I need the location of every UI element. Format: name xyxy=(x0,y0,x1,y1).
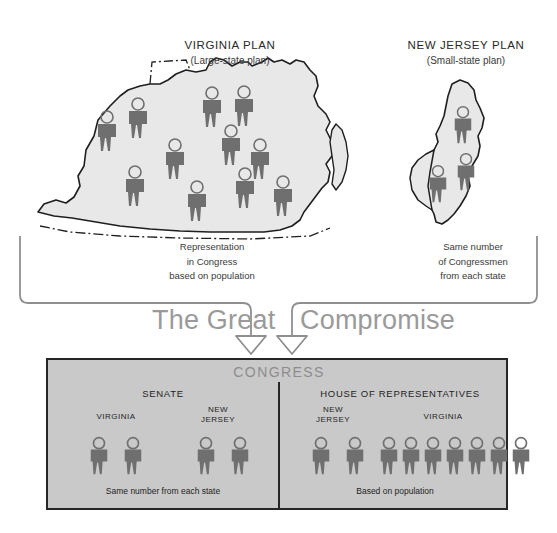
house-new-jersey-label: NEW JERSEY xyxy=(298,405,368,425)
senate-new-jersey-figures xyxy=(195,436,251,476)
person-icon xyxy=(195,436,217,476)
person-icon xyxy=(400,436,422,476)
congress-title: CONGRESS xyxy=(48,364,510,380)
person-icon xyxy=(422,436,444,476)
senate-caption: Same number from each state xyxy=(48,486,278,496)
person-icon xyxy=(88,436,110,476)
senate-new-jersey-label: NEW JERSEY xyxy=(183,405,253,425)
diagram-canvas: VIRGINIA PLAN (Large-state plan) NEW JER… xyxy=(0,0,557,533)
person-icon xyxy=(310,436,332,476)
person-icon xyxy=(122,436,144,476)
house-virginia-label: VIRGINIA xyxy=(398,412,488,422)
person-icon xyxy=(344,436,366,476)
senate-virginia-figures xyxy=(88,436,144,476)
house-caption: Based on population xyxy=(280,486,510,496)
senate-title: SENATE xyxy=(108,388,218,399)
house-new-jersey-figures xyxy=(310,436,366,476)
congress-box: CONGRESS SENATE VIRGINIA NEW JERSEY Same… xyxy=(46,358,508,510)
house-title: HOUSE OF REPRESENTATIVES xyxy=(290,388,510,399)
arrow-down-icon xyxy=(236,336,266,354)
person-icon xyxy=(466,436,488,476)
person-icon xyxy=(378,436,400,476)
person-icon xyxy=(444,436,466,476)
senate-virginia-label: VIRGINIA xyxy=(76,412,156,422)
arrow-down-icon xyxy=(277,336,307,354)
person-icon xyxy=(488,436,510,476)
person-icon xyxy=(510,436,532,476)
great-compromise-title-part2: Compromise xyxy=(300,305,455,336)
great-compromise-title-part1: The Great xyxy=(152,305,275,336)
house-virginia-figures xyxy=(378,436,532,476)
person-icon xyxy=(229,436,251,476)
